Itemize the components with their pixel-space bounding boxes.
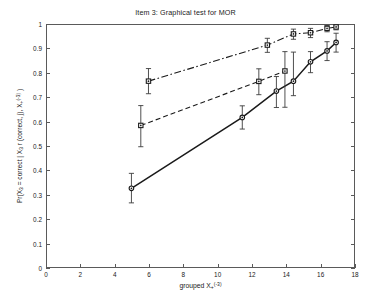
- data-point-center: [140, 125, 142, 127]
- y-tick-mark: [46, 195, 50, 196]
- y-axis-sub-1: 3: [19, 187, 24, 190]
- series-line: [131, 42, 336, 188]
- x-axis-label-text: grouped X: [179, 282, 210, 289]
- y-axis-close: ): [16, 89, 23, 93]
- y-tick-label: 0.8: [24, 69, 42, 76]
- y-axis-label-text: Pr(X: [16, 190, 23, 203]
- y-tick-label: 0.2: [24, 216, 42, 223]
- y-tick-mark-right: [351, 73, 355, 74]
- data-point-center: [284, 70, 286, 72]
- y-tick-mark-right: [351, 244, 355, 245]
- chart-data-layer: [47, 25, 354, 267]
- y-tick-label: 0.6: [24, 118, 42, 125]
- y-tick-label: 0.4: [24, 167, 42, 174]
- error-bar: [282, 52, 287, 108]
- series-line: [141, 71, 285, 125]
- x-tick-mark: [286, 264, 287, 268]
- x-tick-mark: [183, 264, 184, 268]
- y-tick-mark: [46, 24, 50, 25]
- x-tick-mark: [252, 264, 253, 268]
- data-point-center: [335, 26, 337, 28]
- y-tick-mark: [46, 219, 50, 220]
- figure-canvas: Item 3: Graphical test for MOR 024681012…: [0, 0, 371, 300]
- data-point-center: [310, 61, 312, 63]
- y-tick-label: 0.1: [24, 240, 42, 247]
- data-point-center: [131, 188, 133, 190]
- data-point-center: [276, 90, 278, 92]
- plot-area: [46, 24, 355, 268]
- y-tick-mark: [46, 122, 50, 123]
- x-tick-label: 12: [248, 271, 255, 278]
- y-tick-mark: [46, 244, 50, 245]
- y-axis-mid-1: = correct | X: [16, 150, 23, 187]
- y-tick-mark: [46, 170, 50, 171]
- x-tick-mark: [149, 264, 150, 268]
- y-axis-superscript: (-3): [16, 93, 21, 101]
- chart-title: Item 3: Graphical test for MOR: [0, 8, 371, 17]
- y-tick-mark-right: [351, 122, 355, 123]
- data-point-center: [326, 50, 328, 52]
- x-tick-mark: [218, 264, 219, 268]
- x-tick-mark: [115, 264, 116, 268]
- data-point-center: [258, 81, 260, 83]
- x-tick-label: 8: [182, 271, 186, 278]
- data-point-center: [293, 33, 295, 35]
- x-tick-label: 16: [317, 271, 324, 278]
- y-tick-mark: [46, 268, 50, 269]
- y-tick-mark: [46, 146, 50, 147]
- y-tick-mark-right: [351, 146, 355, 147]
- x-tick-mark: [80, 264, 81, 268]
- x-axis-label: grouped X+(-3): [46, 281, 355, 290]
- y-tick-mark-right: [351, 24, 355, 25]
- y-tick-label: 0.3: [24, 191, 42, 198]
- error-bar: [291, 52, 296, 96]
- data-point-center: [293, 80, 295, 82]
- data-point-center: [241, 117, 243, 119]
- x-tick-label: 18: [351, 271, 358, 278]
- x-axis-label-superscript: (-3): [214, 281, 222, 287]
- y-tick-mark-right: [351, 195, 355, 196]
- y-tick-mark-right: [351, 268, 355, 269]
- x-tick-label: 2: [79, 271, 83, 278]
- y-tick-label: 0.5: [24, 143, 42, 150]
- y-tick-mark-right: [351, 48, 355, 49]
- data-point-center: [148, 80, 150, 82]
- y-axis-sub-2: 3: [19, 147, 24, 150]
- y-tick-mark-right: [351, 97, 355, 98]
- y-axis-mid-2: r (correct, j), X: [16, 103, 23, 147]
- x-tick-label: 4: [113, 271, 117, 278]
- x-tick-mark: [321, 264, 322, 268]
- y-tick-mark: [46, 73, 50, 74]
- x-tick-mark: [355, 264, 356, 268]
- y-tick-label: 0.7: [24, 94, 42, 101]
- data-point-center: [335, 42, 337, 44]
- y-tick-label: 1: [24, 21, 42, 28]
- data-point-center: [267, 44, 269, 46]
- y-tick-label: 0.9: [24, 45, 42, 52]
- x-tick-label: 10: [214, 271, 221, 278]
- y-tick-mark: [46, 48, 50, 49]
- x-tick-label: 0: [44, 271, 48, 278]
- x-tick-label: 6: [147, 271, 151, 278]
- x-tick-label: 14: [283, 271, 290, 278]
- y-tick-mark-right: [351, 219, 355, 220]
- data-point-center: [326, 28, 328, 30]
- y-tick-mark-right: [351, 170, 355, 171]
- y-tick-label: 0: [24, 265, 42, 272]
- y-tick-mark: [46, 97, 50, 98]
- y-axis-label: Pr(X3 = correct | X3 r (correct, j), X+(…: [16, 89, 24, 203]
- data-point-center: [310, 32, 312, 34]
- y-axis-sub-3: +: [19, 101, 24, 104]
